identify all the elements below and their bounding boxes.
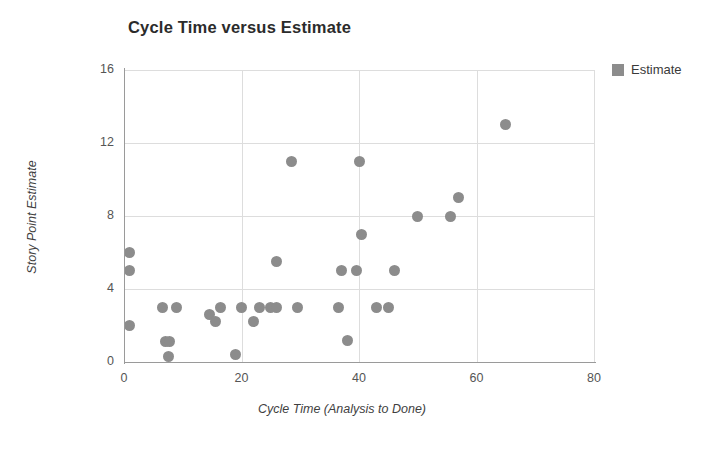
y-tick-label: 8	[80, 208, 114, 222]
data-point	[124, 265, 135, 276]
x-tick-label: 20	[222, 371, 262, 385]
x-axis-line	[124, 362, 596, 363]
gridline-vertical	[477, 70, 478, 362]
data-point	[286, 156, 297, 167]
data-point	[445, 211, 456, 222]
data-point	[333, 302, 344, 313]
data-point	[354, 156, 365, 167]
x-axis-title: Cycle Time (Analysis to Done)	[258, 402, 426, 416]
y-tick-label: 0	[80, 354, 114, 368]
data-point	[124, 247, 135, 258]
data-point	[336, 265, 347, 276]
data-point	[215, 302, 226, 313]
data-point	[389, 265, 400, 276]
data-point	[292, 302, 303, 313]
x-tick-label: 80	[574, 371, 614, 385]
data-point	[230, 349, 241, 360]
data-point	[163, 351, 174, 362]
data-point	[157, 302, 168, 313]
y-tick-label: 16	[80, 62, 114, 76]
data-point	[356, 229, 367, 240]
data-point	[500, 119, 511, 130]
data-point	[271, 256, 282, 267]
data-point	[351, 265, 362, 276]
legend: Estimate	[612, 62, 682, 77]
y-tick-label: 4	[80, 281, 114, 295]
x-tick-label: 0	[104, 371, 144, 385]
data-point	[248, 316, 259, 327]
y-axis-title: Story Point Estimate	[25, 137, 39, 297]
gridline-vertical	[242, 70, 243, 362]
legend-swatch-icon	[612, 64, 624, 76]
plot-area	[124, 70, 594, 362]
data-point	[412, 211, 423, 222]
data-point	[271, 302, 282, 313]
data-point	[171, 302, 182, 313]
data-point	[210, 316, 221, 327]
data-point	[342, 335, 353, 346]
y-axis-line	[124, 68, 125, 364]
data-point	[254, 302, 265, 313]
gridline-vertical	[594, 70, 595, 362]
data-point	[124, 320, 135, 331]
data-point	[164, 336, 175, 347]
data-point	[383, 302, 394, 313]
y-tick-label: 12	[80, 135, 114, 149]
chart-title: Cycle Time versus Estimate	[128, 18, 351, 37]
data-point	[236, 302, 247, 313]
scatter-chart: Cycle Time versus Estimate 0481216 02040…	[0, 0, 727, 450]
x-tick-label: 40	[339, 371, 379, 385]
x-tick-label: 60	[457, 371, 497, 385]
data-point	[453, 192, 464, 203]
legend-label-estimate: Estimate	[631, 62, 682, 77]
data-point	[371, 302, 382, 313]
gridline-vertical	[359, 70, 360, 362]
